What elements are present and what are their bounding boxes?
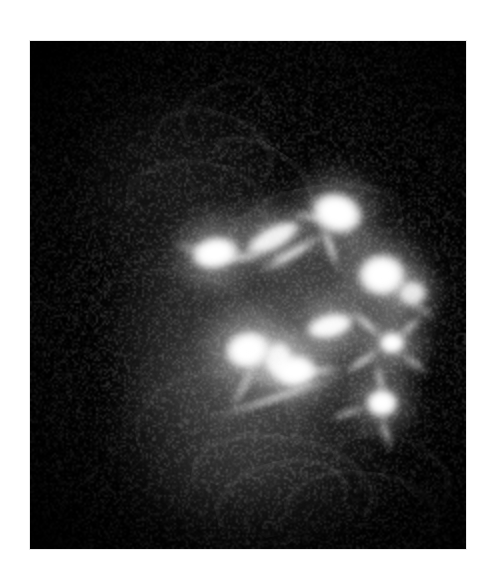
page-root: Grayscale fluorescence micrograph of lab… <box>0 0 493 582</box>
cell-soma-layer <box>30 41 466 549</box>
soma-mid-bar <box>304 309 356 344</box>
soma-mid-bar-halo <box>292 288 368 364</box>
soma-center-cluster-b <box>262 340 294 378</box>
soma-center-cluster-c <box>271 353 318 389</box>
soma-star-center-halo <box>348 299 436 387</box>
soma-right-upper-round-halo <box>332 225 432 325</box>
soma-mid-left-bright <box>189 233 242 273</box>
soma-right-upper-round <box>358 254 406 296</box>
soma-upper-right-triangle <box>306 186 368 240</box>
soma-lower-right <box>366 389 398 417</box>
soma-upper-mid-streak <box>241 214 304 262</box>
soma-upper-mid-streak-halo <box>233 198 313 278</box>
soma-center-cluster-c-halo <box>251 327 339 415</box>
soma-center-cluster-a-halo <box>194 296 302 404</box>
soma-right-small-halo <box>380 261 444 325</box>
soma-star-center <box>379 332 405 354</box>
soma-center-cluster-a <box>222 327 275 374</box>
soma-mid-left-bright-halo <box>167 205 263 301</box>
soma-upper-right-triangle-halo <box>285 161 389 265</box>
micrograph-panel[interactable]: Grayscale fluorescence micrograph of lab… <box>30 41 466 549</box>
soma-lower-right-halo <box>340 361 424 445</box>
soma-center-cluster-b-halo <box>242 323 314 395</box>
soma-right-small <box>398 281 426 305</box>
